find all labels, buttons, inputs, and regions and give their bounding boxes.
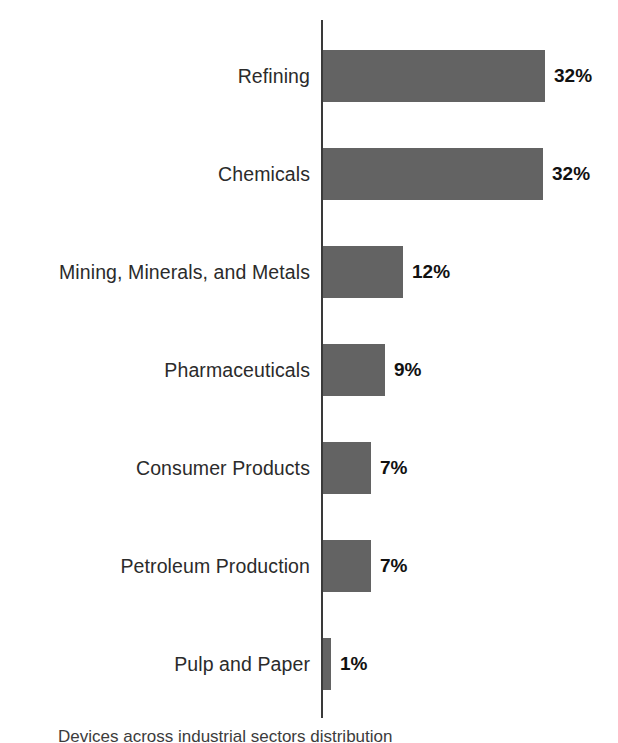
bar — [323, 540, 371, 592]
bar-wrapper: 1% — [323, 638, 331, 690]
bar-wrapper: 32% — [323, 148, 543, 200]
bar-value-label: 12% — [412, 246, 450, 298]
bar — [323, 246, 403, 298]
bar-value-label: 7% — [380, 442, 407, 494]
bar-wrapper: 7% — [323, 540, 371, 592]
bar-wrapper: 32% — [323, 50, 545, 102]
bar — [323, 442, 371, 494]
category-label: Pulp and Paper — [0, 638, 310, 690]
bar — [323, 148, 543, 200]
bar — [323, 50, 545, 102]
category-label: Refining — [0, 50, 310, 102]
chart-row: Consumer Products 7% — [0, 442, 618, 494]
category-label: Mining, Minerals, and Metals — [0, 246, 310, 298]
plot-area: Refining 32% Chemicals 32% Mining, Miner… — [0, 0, 618, 722]
chart-row: Chemicals 32% — [0, 148, 618, 200]
chart-row: Pulp and Paper 1% — [0, 638, 618, 690]
bar-value-label: 32% — [552, 148, 590, 200]
bar — [323, 638, 331, 690]
category-label: Pharmaceuticals — [0, 344, 310, 396]
bar-wrapper: 12% — [323, 246, 403, 298]
bar-value-label: 1% — [340, 638, 367, 690]
category-label: Petroleum Production — [0, 540, 310, 592]
chart-caption: Devices across industrial sectors distri… — [58, 727, 618, 743]
category-label: Consumer Products — [0, 442, 310, 494]
bar-chart-figure: Refining 32% Chemicals 32% Mining, Miner… — [0, 0, 618, 743]
chart-row: Pharmaceuticals 9% — [0, 344, 618, 396]
category-label: Chemicals — [0, 148, 310, 200]
chart-row: Mining, Minerals, and Metals 12% — [0, 246, 618, 298]
bar-value-label: 32% — [554, 50, 592, 102]
bar-wrapper: 9% — [323, 344, 385, 396]
chart-row: Petroleum Production 7% — [0, 540, 618, 592]
bar-value-label: 9% — [394, 344, 421, 396]
bar — [323, 344, 385, 396]
bar-wrapper: 7% — [323, 442, 371, 494]
chart-row: Refining 32% — [0, 50, 618, 102]
bar-value-label: 7% — [380, 540, 407, 592]
